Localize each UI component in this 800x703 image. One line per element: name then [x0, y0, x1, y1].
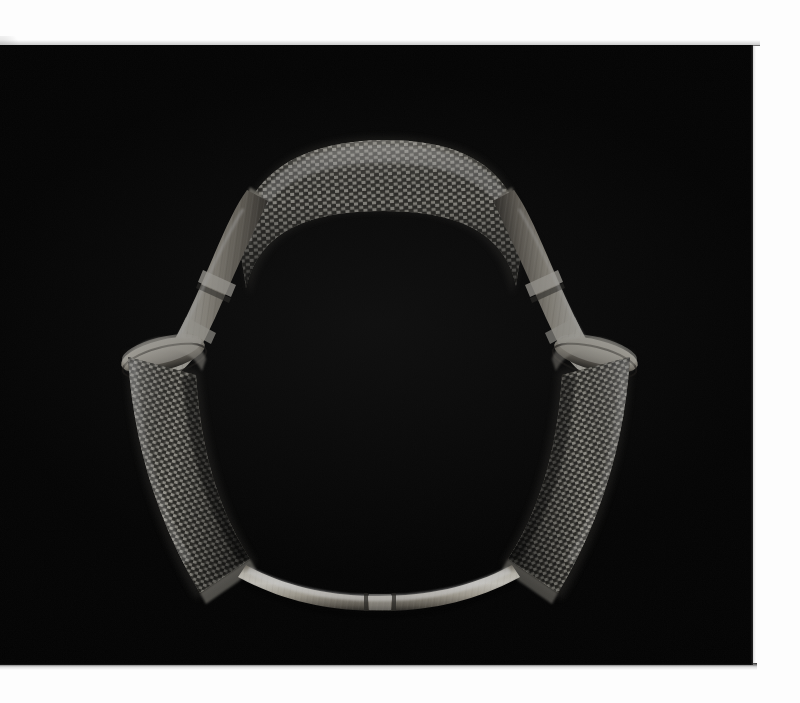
film-grain	[0, 45, 753, 665]
woven-ring-ornament	[0, 45, 753, 665]
backdrop-right-edge-shadow	[750, 45, 756, 665]
black-studio-backdrop	[0, 45, 753, 665]
backdrop-bottom-edge-shadow	[0, 663, 757, 670]
ornament-illustration	[0, 45, 753, 665]
photo-page: ring ornament Circular ornament formed o…	[0, 0, 800, 703]
